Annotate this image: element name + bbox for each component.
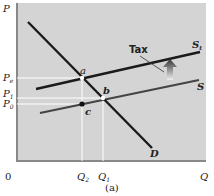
tax-diagram: P 0 Q Pe P1 P0 Q2 Q1 a b c D S St Tax (a… xyxy=(0,0,214,196)
point-c xyxy=(79,101,84,106)
tax-label: Tax xyxy=(129,44,148,55)
demand-label: D xyxy=(149,148,159,159)
point-c-label: c xyxy=(85,106,91,117)
y-axis-label: P xyxy=(2,3,10,14)
point-b-label: b xyxy=(103,85,110,96)
figure-caption: (a) xyxy=(105,182,119,193)
supply-label: S xyxy=(197,81,204,92)
origin-label: 0 xyxy=(5,171,11,182)
q2-label: Q2 xyxy=(77,171,89,183)
x-axis-label: Q xyxy=(200,171,208,182)
plot-area xyxy=(17,3,206,161)
point-b xyxy=(101,96,105,100)
pe-label: Pe xyxy=(2,72,14,84)
point-a xyxy=(80,76,84,80)
point-a-label: a xyxy=(80,65,86,76)
